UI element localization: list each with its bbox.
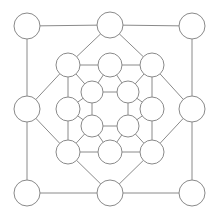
graph-edge-o-s-to-m-se [119,160,143,184]
graph-edge-o-e-to-m-se [160,119,183,144]
graph-edge-m-n-to-i-ne [117,75,122,83]
graph-edge-m-nw-to-i-nw [76,74,85,84]
graph-edge-o-e-to-m-ne [160,74,183,100]
graph-edge-o-n-to-m-ne [119,34,143,57]
graph-node-o-s[interactable] [97,180,123,206]
graph-edge-o-n-to-o-ne [123,25,179,26]
graph-edge-m-s-to-i-sw [98,135,103,142]
graph-edge-m-w-to-i-nw [78,98,83,102]
graph-node-o-w[interactable] [14,96,40,122]
graph-node-o-nw[interactable] [14,13,40,39]
graph-node-m-nw[interactable] [56,53,80,77]
graph-edge-o-n-to-m-nw [77,34,101,57]
graph-node-m-e[interactable] [140,97,164,121]
graph-edge-m-ne-to-i-ne [135,74,144,84]
graph-node-i-ne[interactable] [117,81,139,103]
graph-node-o-e[interactable] [179,96,205,122]
graph-edge-m-sw-to-i-sw [76,134,84,143]
graph-node-m-s[interactable] [98,140,122,164]
graph-edge-m-e-to-i-se [137,116,142,120]
graph-node-o-ne[interactable] [179,13,205,39]
graph-canvas [0,0,220,218]
graph-node-i-sw[interactable] [81,115,103,137]
graph-edge-o-nw-to-o-n [40,25,97,26]
graph-node-o-se[interactable] [179,180,205,206]
graph-edge-m-se-to-i-se [135,134,143,143]
graph-edge-m-w-to-i-sw [78,116,83,120]
graph-node-m-w[interactable] [56,97,80,121]
edge-layer [27,25,192,193]
node-layer [14,12,205,206]
graph-node-m-n[interactable] [98,53,122,77]
graph-edge-o-w-to-m-sw [36,118,60,143]
graph-node-o-n[interactable] [97,12,123,38]
graph-node-m-se[interactable] [140,140,164,164]
graph-edge-m-e-to-i-ne [137,98,142,102]
graph-edge-m-s-to-i-se [117,135,122,142]
graph-node-o-sw[interactable] [14,180,40,206]
graph-edge-m-n-to-i-nw [98,75,103,83]
graph-node-i-se[interactable] [117,115,139,137]
graph-edge-o-s-to-m-sw [77,160,101,184]
graph-node-i-nw[interactable] [81,81,103,103]
graph-node-m-ne[interactable] [140,53,164,77]
graph-diagram-container [0,0,220,218]
graph-node-m-sw[interactable] [56,140,80,164]
graph-edge-o-w-to-m-nw [36,74,60,100]
